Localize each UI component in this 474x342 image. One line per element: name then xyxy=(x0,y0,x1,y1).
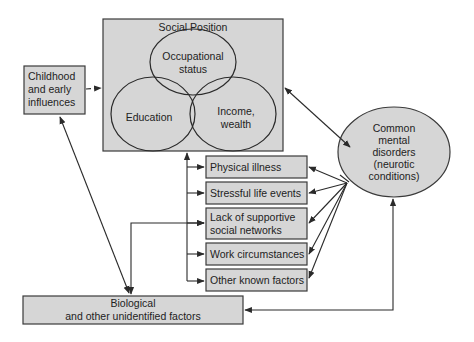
outcome-to-lack-arrow xyxy=(309,183,347,223)
outcome-label-3: disorders xyxy=(372,146,415,158)
outcome-label-1: Common xyxy=(373,122,416,134)
outcome-to-physical-arrow xyxy=(309,167,347,183)
childhood-label-2: and early xyxy=(28,83,72,95)
occupational-label-1: Occupational xyxy=(162,50,223,62)
childhood-box: Childhood and early influences xyxy=(24,66,85,114)
outcome-label-4: (neurotic xyxy=(374,158,415,170)
biological-label-1: Biological xyxy=(111,297,156,309)
outcome-label-5: conditions) xyxy=(369,170,420,182)
diagram-canvas: Social Position Occupational status Educ… xyxy=(0,0,474,342)
income-label-1: Income, xyxy=(217,105,254,117)
income-label-2: wealth xyxy=(220,118,252,130)
factor-physical-illness: Physical illness xyxy=(206,156,307,178)
factor-work-circumstances: Work circumstances xyxy=(206,243,307,265)
occupational-label-2: status xyxy=(179,63,207,75)
factor-label: Stressful life events xyxy=(210,187,301,199)
outcome-to-other-arrow xyxy=(309,183,347,278)
outcome-to-stressful-arrow xyxy=(309,183,347,193)
factor-other-known-factors: Other known factors xyxy=(206,269,307,291)
factor-label-2: social networks xyxy=(210,224,282,236)
factor-label-1: Lack of supportive xyxy=(210,211,295,223)
childhood-label-1: Childhood xyxy=(28,70,75,82)
factor-stressful-life-events: Stressful life events xyxy=(206,182,307,204)
biological-factors-box: Biological and other unidentified factor… xyxy=(23,296,243,324)
lack-to-biological-arrow xyxy=(131,223,204,294)
social-position-box: Social Position Occupational status Educ… xyxy=(103,19,283,151)
social-to-outcome-arrow xyxy=(285,88,350,147)
childhood-to-social-arrow xyxy=(86,88,101,89)
factor-label: Work circumstances xyxy=(210,248,304,260)
factor-label: Other known factors xyxy=(210,274,304,286)
factor-lack-of-supportive-networks: Lack of supportive social networks xyxy=(206,208,307,239)
factor-label: Physical illness xyxy=(210,161,281,173)
common-mental-disorders-node: Common mental disorders (neurotic condit… xyxy=(338,107,450,197)
biological-label-2: and other unidentified factors xyxy=(65,310,200,322)
outcome-label-2: mental xyxy=(378,134,410,146)
outcome-to-work-arrow xyxy=(309,183,347,254)
childhood-label-3: influences xyxy=(28,96,75,108)
social-position-title: Social Position xyxy=(159,21,228,33)
education-label: Education xyxy=(126,111,173,123)
